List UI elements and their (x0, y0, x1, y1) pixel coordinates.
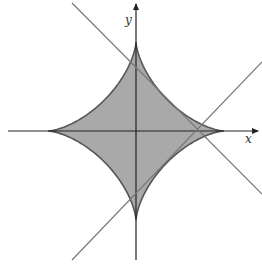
y-axis-label: y (124, 13, 132, 27)
astroid-diagram: y x (0, 0, 262, 264)
tangent-line-ascending (72, 62, 262, 260)
x-axis-label: x (245, 132, 252, 146)
tangent-line-descending (72, 3, 262, 194)
